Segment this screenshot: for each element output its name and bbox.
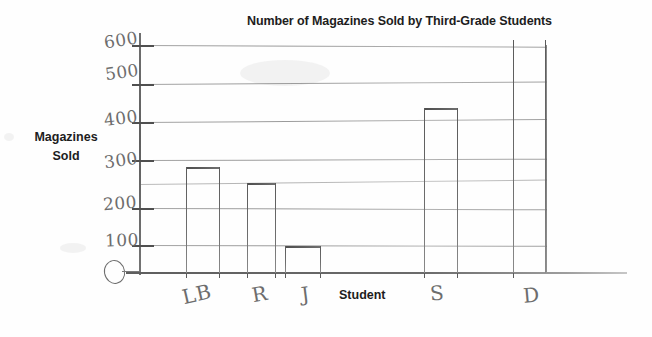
bar-lb-right-edge: [219, 167, 220, 273]
gridline-300: [140, 159, 547, 161]
y-tick-label-100: 100: [105, 231, 140, 249]
y-tick-label-300: 300: [103, 150, 139, 172]
bar-s-right-edge: [457, 108, 458, 273]
gridline-600: [140, 45, 547, 48]
y-tick-label-400: 400: [103, 108, 139, 129]
bar-lb: [186, 167, 220, 273]
y-axis-title-line-2: Sold: [30, 147, 102, 166]
bar-lb-top-edge: [186, 167, 220, 169]
chart-screenshot: Number of Magazines Sold by Third-Grade …: [0, 0, 652, 337]
bar-r-left-edge: [247, 183, 248, 273]
x-tick-label-lb: LB: [180, 281, 214, 307]
paper-smudge: [60, 243, 86, 253]
y-axis-title: Magazines Sold: [30, 128, 102, 166]
bar-r-top-edge: [247, 183, 276, 185]
y-axis-title-line-1: Magazines: [30, 128, 102, 147]
paper-smudge: [4, 133, 14, 141]
gridline-400: [140, 119, 547, 123]
x-tick-label-j: J: [300, 284, 311, 305]
gridline-500: [140, 82, 547, 85]
y-tick-label-600: 600: [103, 29, 139, 51]
bar-s: [424, 108, 458, 273]
bar-d-left-edge: [513, 40, 514, 273]
x-axis-title: Student: [339, 288, 386, 302]
y-tick-500: [132, 84, 154, 86]
bar-s-top-edge: [424, 108, 458, 110]
bar-lb-left-edge: [186, 167, 187, 273]
bar-r-right-edge: [275, 183, 276, 273]
x-tick-label-d: D: [522, 284, 541, 305]
bar-d-right-edge: [545, 40, 546, 273]
bar-r: [247, 183, 276, 273]
y-tick-label-500: 500: [104, 62, 140, 84]
bar-j-left-edge: [285, 246, 286, 273]
x-tick-label-r: R: [250, 283, 269, 305]
x-tick-label-s: S: [429, 283, 445, 304]
bar-j-right-edge: [320, 246, 321, 273]
bar-j-top-edge: [285, 246, 321, 248]
bar-s-left-edge: [424, 108, 425, 273]
y-axis-line: [139, 33, 141, 275]
bar-d: [513, 40, 546, 273]
chart-title: Number of Magazines Sold by Third-Grade …: [247, 14, 552, 28]
origin-connector-stroke: [122, 271, 139, 272]
y-tick-label-200: 200: [102, 194, 137, 213]
bar-j: [285, 246, 321, 273]
